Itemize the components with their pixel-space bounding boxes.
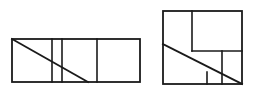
- canvas-background: [0, 0, 253, 95]
- diagram-canvas: [0, 0, 253, 95]
